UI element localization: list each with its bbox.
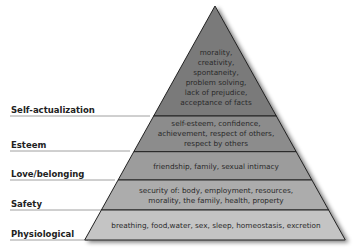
self-actualization-line-4: problem solving, — [186, 78, 247, 87]
self-actualization-line-5: lack of prejudice, — [185, 88, 248, 97]
safety-line-1: security of: body, employment, resources… — [139, 186, 293, 195]
self-actualization-line-1: morality, — [200, 48, 233, 57]
label-love-belonging: Love/belonging — [11, 169, 84, 179]
self-actualization-line-2: creativity, — [198, 58, 235, 67]
love-line-1: friendship, family, sexual intimacy — [153, 162, 279, 171]
self-actualization-line-6: acceptance of facts — [180, 98, 252, 107]
label-safety: Safety — [11, 199, 42, 209]
esteem-line-3: respect by others — [184, 139, 248, 148]
safety-line-2: morality, the family, health, property — [148, 196, 284, 205]
pyramid-diagram: Self-actualization Esteem Love/belonging… — [0, 0, 360, 251]
band-safety — [101, 180, 328, 210]
label-physiological: Physiological — [11, 229, 74, 239]
label-esteem: Esteem — [11, 140, 46, 150]
label-self-actualization: Self-actualization — [11, 105, 95, 115]
self-actualization-line-3: spontaneity, — [193, 68, 239, 77]
esteem-line-1: self-esteem, confidence, — [171, 119, 260, 128]
physiological-line-1: breathing, food,water, sex, sleep, homeo… — [111, 221, 320, 230]
esteem-line-2: achievement, respect of others, — [158, 129, 275, 138]
